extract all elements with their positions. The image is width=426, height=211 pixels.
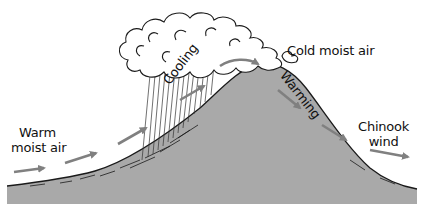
label-warm-line2: moist air [11,140,66,155]
label-chinook-wind: Chinook wind [358,119,409,149]
label-chinook-line1: Chinook [358,119,409,134]
arrow-warm-3 [118,128,146,144]
label-warm-line1: Warm [11,125,66,140]
arrow-warm-1 [14,168,44,172]
label-cold-moist-air: Cold moist air [287,43,374,58]
chinook-diagram: Warm moist air Cooling Cold moist air Wa… [0,0,426,211]
label-chinook-line2: wind [358,134,409,149]
cloud-icon [119,13,297,78]
arrow-warm-2 [65,153,96,163]
label-warm-moist-air: Warm moist air [11,125,66,155]
arrow-chinook-2 [370,150,408,157]
